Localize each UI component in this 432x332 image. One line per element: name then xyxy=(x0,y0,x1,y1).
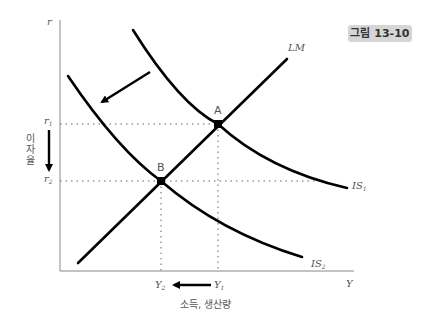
point-a-label: A xyxy=(214,105,222,116)
is2-label: IS2 xyxy=(311,259,326,270)
y1-label: Y1 xyxy=(214,280,224,291)
x-axis-symbol: Y xyxy=(346,279,353,289)
point-a-marker xyxy=(214,120,222,128)
point-b-label: B xyxy=(157,162,165,173)
y-axis-title: 이자율 xyxy=(24,133,34,166)
is2-curve xyxy=(68,76,302,257)
shift-arrow xyxy=(102,72,150,102)
lm-label: LM xyxy=(288,43,305,53)
is1-label: IS1 xyxy=(352,181,367,192)
is1-curve xyxy=(133,30,347,188)
x-axis-title: 소득, 생산량 xyxy=(180,300,231,310)
y-axis-symbol: r xyxy=(47,17,52,27)
r1-label: r1 xyxy=(44,116,53,127)
figure-badge: 그림 13-10 xyxy=(348,25,412,42)
lm-curve xyxy=(78,59,287,263)
point-b-marker xyxy=(157,177,165,185)
r2-label: r2 xyxy=(44,174,53,185)
is-lm-diagram: 그림 13-10 r Y r1 r2 Y2 Y1 LM IS1 IS2 A B … xyxy=(0,0,432,332)
y2-label: Y2 xyxy=(155,280,165,291)
